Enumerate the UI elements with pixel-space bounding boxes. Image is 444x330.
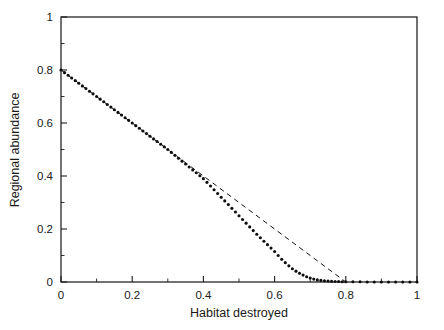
data-point [344, 280, 347, 283]
data-point [70, 76, 73, 79]
data-point [334, 280, 337, 283]
data-point [81, 84, 84, 87]
y-axis-title: Regional abundance [8, 93, 22, 208]
data-point [148, 135, 151, 138]
data-point [177, 157, 180, 160]
data-point [227, 203, 230, 206]
data-point [401, 280, 404, 283]
data-point [91, 92, 94, 95]
data-point [337, 280, 340, 283]
data-point [302, 274, 305, 277]
data-point [205, 181, 208, 184]
y-tick-label: 0.6 [37, 117, 53, 129]
y-tick-label: 0.8 [37, 64, 53, 76]
data-point [284, 261, 287, 264]
data-point [305, 275, 308, 278]
data-point [156, 140, 159, 143]
data-point [220, 196, 223, 199]
data-point [323, 279, 326, 282]
data-point [170, 151, 173, 154]
data-point [109, 106, 112, 109]
data-point [127, 119, 130, 122]
data-point [120, 114, 123, 117]
data-point [184, 163, 187, 166]
data-point [152, 137, 155, 140]
data-point [166, 148, 169, 151]
data-point [234, 210, 237, 213]
data-point [319, 279, 322, 282]
data-point [245, 222, 248, 225]
data-point [223, 199, 226, 202]
x-tick-label: 0.2 [124, 289, 140, 301]
data-point [198, 174, 201, 177]
data-point [291, 267, 294, 270]
data-point [74, 79, 77, 82]
data-point [280, 258, 283, 261]
data-point [209, 185, 212, 188]
data-point [358, 280, 361, 283]
data-point [408, 280, 411, 283]
data-point [213, 188, 216, 191]
data-point [316, 278, 319, 281]
data-point [326, 279, 329, 282]
data-point [141, 129, 144, 132]
data-point [191, 168, 194, 171]
data-point [341, 280, 344, 283]
data-point [241, 218, 244, 221]
data-point [84, 87, 87, 90]
data-point [373, 280, 376, 283]
data-point [63, 71, 66, 74]
data-point [312, 278, 315, 281]
data-point [188, 165, 191, 168]
data-point [131, 121, 134, 124]
data-point [287, 264, 290, 267]
data-point [273, 250, 276, 253]
data-point [102, 100, 105, 103]
figure-container: 00.20.40.60.81 00.20.40.60.81 Habitat de… [0, 0, 444, 330]
data-point [394, 280, 397, 283]
data-point [269, 247, 272, 250]
data-point [145, 132, 148, 135]
data-point [230, 207, 233, 210]
data-point [252, 229, 255, 232]
data-point [99, 98, 102, 101]
y-tick-label: 1 [47, 11, 53, 23]
data-point [116, 111, 119, 114]
data-point [124, 116, 127, 119]
data-point [67, 74, 70, 77]
data-point [330, 280, 333, 283]
data-point [59, 68, 62, 71]
data-point [351, 280, 354, 283]
figure-background [0, 0, 444, 330]
y-tick-label: 0 [47, 276, 53, 288]
data-point [173, 154, 176, 157]
y-tick-label: 0.4 [37, 170, 54, 182]
data-point [134, 124, 137, 127]
data-point [277, 254, 280, 257]
data-point [259, 236, 262, 239]
data-point [248, 225, 251, 228]
y-tick-label: 0.2 [37, 223, 53, 235]
data-point [366, 280, 369, 283]
data-point [202, 177, 205, 180]
data-point [262, 240, 265, 243]
data-point [95, 95, 98, 98]
x-tick-label: 0.8 [338, 289, 354, 301]
data-point [195, 171, 198, 174]
data-point [113, 108, 116, 111]
data-point [237, 214, 240, 217]
chart-canvas: 00.20.40.60.81 00.20.40.60.81 Habitat de… [0, 0, 444, 330]
data-point [138, 127, 141, 130]
data-point [180, 160, 183, 163]
data-point [163, 145, 166, 148]
data-point [106, 103, 109, 106]
data-point [298, 272, 301, 275]
data-point [415, 280, 418, 283]
data-point [294, 270, 297, 273]
x-tick-label: 0 [58, 289, 64, 301]
data-point [159, 143, 162, 146]
x-tick-label: 0.6 [267, 289, 283, 301]
data-point [380, 280, 383, 283]
x-axis-title: Habitat destroyed [190, 306, 288, 320]
x-tick-label: 1 [414, 289, 420, 301]
